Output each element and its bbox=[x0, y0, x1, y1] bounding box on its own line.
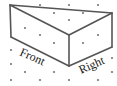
prism-edge bbox=[69, 13, 112, 35]
right-label: Right bbox=[77, 53, 108, 77]
grid-dot bbox=[68, 4, 70, 6]
grid-dot bbox=[39, 79, 41, 81]
grid-dot bbox=[111, 57, 113, 59]
grid-dot bbox=[53, 71, 55, 73]
front-label: Front bbox=[18, 45, 48, 69]
grid-dot bbox=[53, 12, 55, 14]
grid-dot bbox=[10, 49, 12, 51]
grid-dot bbox=[24, 27, 26, 29]
grid-dot bbox=[97, 34, 99, 36]
prism-edge bbox=[10, 5, 11, 37]
grid-dot bbox=[68, 79, 70, 81]
grid-dot bbox=[68, 19, 70, 21]
prism-edge bbox=[10, 5, 112, 13]
grid-dot bbox=[97, 4, 99, 6]
grid-dot bbox=[82, 42, 84, 44]
grid-dot bbox=[10, 79, 12, 81]
grid-dot bbox=[97, 79, 99, 81]
grid-dot bbox=[82, 12, 84, 14]
grid-dot bbox=[39, 34, 41, 36]
isometric-prism-diagram: Front Right bbox=[0, 0, 117, 86]
grid-dot bbox=[10, 63, 12, 65]
grid-dot bbox=[53, 42, 55, 44]
grid-dot bbox=[111, 71, 113, 73]
grid-dot bbox=[39, 4, 41, 6]
grid-dot bbox=[24, 71, 26, 73]
